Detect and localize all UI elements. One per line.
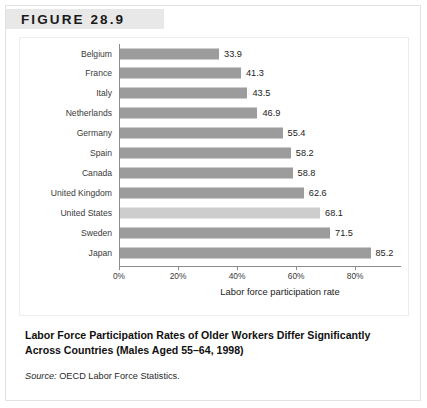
bar-row: Netherlands46.9 xyxy=(20,104,408,123)
bar xyxy=(119,148,291,159)
figure-source: Source: OECD Labor Force Statistics. xyxy=(25,371,403,381)
x-axis-title: Labor force participation rate xyxy=(160,286,400,297)
bar-row: United States68.1 xyxy=(20,203,408,222)
value-label: 58.8 xyxy=(298,168,316,178)
figure-card: FIGURE 28.9 Belgium33.9France41.3Italy43… xyxy=(5,5,421,401)
bar xyxy=(119,167,293,178)
source-text: OECD Labor Force Statistics. xyxy=(57,371,180,381)
x-tick xyxy=(296,266,297,270)
bar xyxy=(119,68,241,79)
category-label: France xyxy=(85,68,112,78)
bar xyxy=(119,128,283,139)
x-tick xyxy=(178,266,179,270)
value-label: 68.1 xyxy=(325,208,343,218)
x-tick-label: 20% xyxy=(170,271,187,281)
category-label: United States xyxy=(60,208,112,218)
bar-row: Sweden71.5 xyxy=(20,223,408,242)
category-label: Canada xyxy=(82,168,112,178)
bar-row: Japan85.2 xyxy=(20,243,408,262)
value-label: 43.5 xyxy=(252,88,270,98)
bar xyxy=(119,48,219,59)
value-label: 55.4 xyxy=(288,128,306,138)
category-label: Germany xyxy=(77,128,112,138)
value-label: 33.9 xyxy=(224,49,242,59)
bar xyxy=(119,108,257,119)
value-label: 41.3 xyxy=(246,68,264,78)
x-tick-label: 60% xyxy=(288,271,305,281)
x-tick xyxy=(119,266,120,270)
bar-row: Belgium33.9 xyxy=(20,44,408,63)
category-label: Japan xyxy=(89,248,112,258)
figure-caption: Labor Force Participation Rates of Older… xyxy=(25,328,403,358)
bar xyxy=(119,88,247,99)
value-label: 46.9 xyxy=(262,108,280,118)
bar xyxy=(119,227,330,238)
category-label: Spain xyxy=(90,148,112,158)
figure-number-label: FIGURE 28.9 xyxy=(21,12,125,27)
bar-row: Canada58.8 xyxy=(20,163,408,182)
category-label: United Kingdom xyxy=(51,188,112,198)
bar xyxy=(119,187,304,198)
bar xyxy=(119,247,371,258)
x-tick-label: 0% xyxy=(113,271,125,281)
x-axis-line xyxy=(119,266,401,267)
value-label: 62.6 xyxy=(309,188,327,198)
source-prefix: Source: xyxy=(25,371,57,381)
x-tick xyxy=(237,266,238,270)
value-label: 71.5 xyxy=(335,228,353,238)
x-tick-label: 80% xyxy=(347,271,364,281)
bar-row: Spain58.2 xyxy=(20,144,408,163)
category-label: Italy xyxy=(96,88,112,98)
category-label: Netherlands xyxy=(66,108,112,118)
bar-row: Italy43.5 xyxy=(20,84,408,103)
chart-panel: Belgium33.9France41.3Italy43.5Netherland… xyxy=(19,37,409,316)
value-label: 85.2 xyxy=(376,248,394,258)
category-label: Sweden xyxy=(81,228,112,238)
value-label: 58.2 xyxy=(296,148,314,158)
plot-area: Belgium33.9France41.3Italy43.5Netherland… xyxy=(20,38,408,315)
bar-row: Germany55.4 xyxy=(20,124,408,143)
x-tick-label: 40% xyxy=(229,271,246,281)
bar-row: United Kingdom62.6 xyxy=(20,183,408,202)
category-label: Belgium xyxy=(81,49,112,59)
bar-row: France41.3 xyxy=(20,64,408,83)
x-tick xyxy=(355,266,356,270)
bar xyxy=(119,207,320,218)
y-axis-line xyxy=(119,44,120,266)
